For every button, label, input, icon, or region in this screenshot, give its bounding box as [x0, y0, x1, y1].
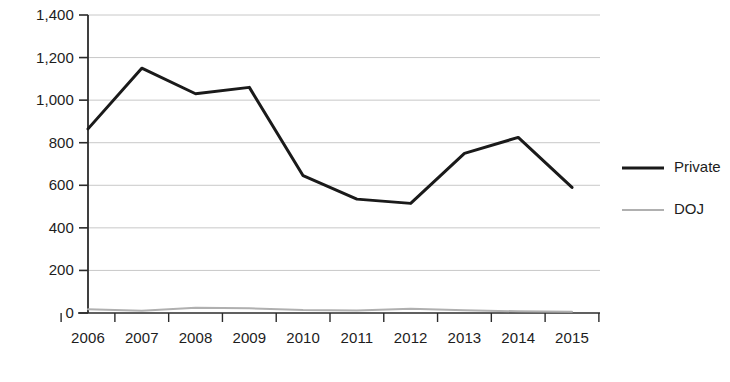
x-axis-tick-label: 2006 [60, 329, 116, 346]
legend-label-doj: DOJ [674, 200, 704, 217]
x-axis-tick-label: 2007 [114, 329, 170, 346]
y-axis-tick-label: 400 [0, 219, 74, 236]
x-axis-tick-label: 2015 [544, 329, 600, 346]
series-line-doj [88, 308, 572, 312]
x-axis-tick-label: 2010 [275, 329, 331, 346]
y-axis-tick-label: 200 [0, 261, 74, 278]
x-axis-tick-label: 2009 [221, 329, 277, 346]
y-axis-tick-label: 0 [0, 304, 74, 321]
x-axis-tick-label: 2013 [436, 329, 492, 346]
x-axis-tick-label: 2011 [329, 329, 385, 346]
line-chart: 02004006008001,0001,2001,400 20062007200… [0, 0, 730, 382]
x-axis-tick-label: 2014 [490, 329, 546, 346]
y-axis-tick-label: 800 [0, 134, 74, 151]
x-axis-tick-label: 2008 [168, 329, 224, 346]
x-axis-tick-label: 2012 [383, 329, 439, 346]
y-axis-tick-label: 1,400 [0, 6, 74, 23]
y-axis-tick-label: 1,000 [0, 91, 74, 108]
y-axis-tick-label: 1,200 [0, 49, 74, 66]
y-axis-tick-label: 600 [0, 176, 74, 193]
series-line-private [88, 68, 572, 203]
legend-label-private: Private [674, 158, 721, 175]
